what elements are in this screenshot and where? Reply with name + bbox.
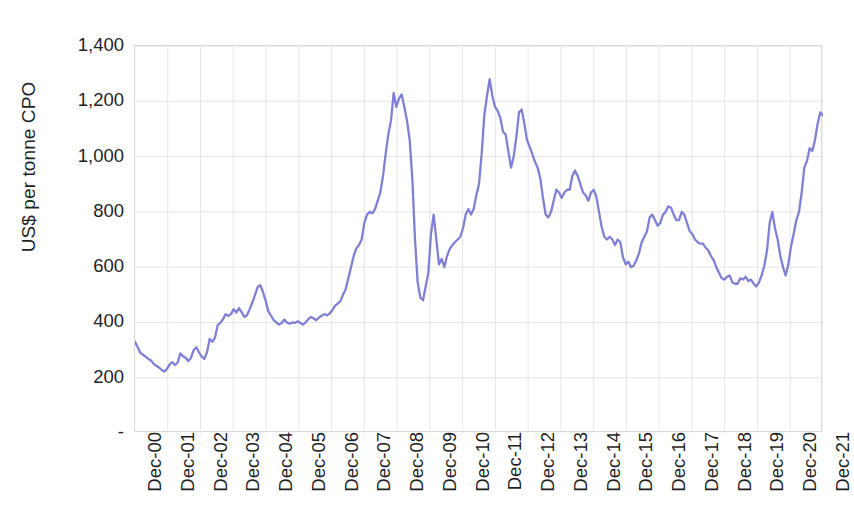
x-tick-label: Dec-18: [734, 432, 756, 532]
plot-area: [134, 45, 822, 432]
x-tick-label: Dec-03: [242, 432, 264, 532]
x-tick-label: Dec-13: [570, 432, 592, 532]
y-tick-label: 600: [4, 255, 124, 277]
plot-svg: [135, 46, 823, 433]
x-tick-label: Dec-02: [210, 432, 232, 532]
x-tick-label: Dec-16: [668, 432, 690, 532]
x-tick-label: Dec-12: [537, 432, 559, 532]
price-line-series: [135, 79, 823, 371]
x-axis-tick-labels: Dec-00Dec-01Dec-02Dec-03Dec-04Dec-05Dec-…: [134, 432, 822, 532]
x-tick-label: Dec-21: [832, 432, 854, 532]
x-tick-label: Dec-08: [406, 432, 428, 532]
x-tick-label: Dec-07: [373, 432, 395, 532]
y-tick-label: 800: [4, 200, 124, 222]
x-tick-label: Dec-00: [144, 432, 166, 532]
x-tick-label: Dec-01: [177, 432, 199, 532]
x-tick-label: Dec-20: [799, 432, 821, 532]
x-tick-label: Dec-04: [275, 432, 297, 532]
x-tick-label: Dec-09: [439, 432, 461, 532]
y-tick-label: 1,200: [4, 89, 124, 111]
y-tick-label: 400: [4, 310, 124, 332]
x-tick-label: Dec-10: [472, 432, 494, 532]
y-axis-tick-labels: -2004006008001,0001,2001,400: [0, 0, 124, 532]
y-tick-label: 1,000: [4, 145, 124, 167]
horizontal-gridlines: [135, 46, 823, 378]
x-tick-label: Dec-19: [766, 432, 788, 532]
x-tick-label: Dec-14: [603, 432, 625, 532]
y-tick-label: 1,400: [4, 34, 124, 56]
x-tick-label: Dec-05: [308, 432, 330, 532]
x-tick-label: Dec-17: [701, 432, 723, 532]
x-tick-label: Dec-06: [341, 432, 363, 532]
y-tick-label: 200: [4, 366, 124, 388]
x-tick-label: Dec-15: [635, 432, 657, 532]
x-tick-label: Dec-11: [504, 432, 526, 532]
y-tick-label: -: [4, 421, 124, 443]
